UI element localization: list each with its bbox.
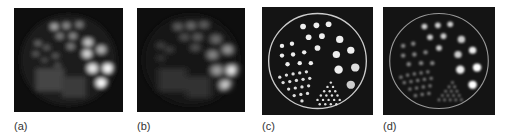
panel-a-image xyxy=(14,8,123,112)
panel-b-image xyxy=(137,8,245,112)
panel-b-label: (b) xyxy=(137,120,150,132)
panel-d-image xyxy=(383,7,495,115)
panel-d-label: (d) xyxy=(383,120,396,132)
panel-c-image xyxy=(262,7,373,115)
phantom-image-c xyxy=(262,7,373,115)
panel-a-label: (a) xyxy=(14,120,27,132)
phantom-image-b xyxy=(137,8,245,112)
panel-c-label: (c) xyxy=(262,120,275,132)
phantom-image-a xyxy=(14,8,123,112)
phantom-image-d xyxy=(383,7,495,115)
